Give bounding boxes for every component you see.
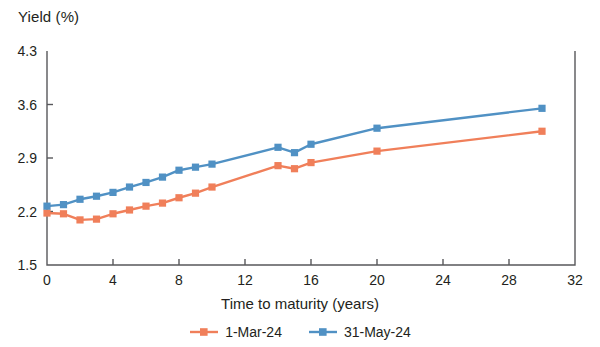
legend-marker-icon xyxy=(189,326,219,338)
data-point-marker xyxy=(76,216,83,223)
data-point-marker xyxy=(175,167,182,174)
data-point-marker xyxy=(208,161,215,168)
series-line xyxy=(47,131,542,220)
x-tick-label: 4 xyxy=(109,272,117,288)
y-tick-label: 4.3 xyxy=(18,43,38,59)
series-31-May-24 xyxy=(43,105,545,210)
data-point-marker xyxy=(307,141,314,148)
axis-frame xyxy=(47,51,575,265)
y-tick-label: 2.2 xyxy=(18,204,38,220)
data-point-marker xyxy=(60,201,67,208)
data-point-marker xyxy=(60,210,67,217)
series-1-Mar-24 xyxy=(43,128,545,224)
x-axis-tick-group: 048121620242832 xyxy=(43,259,583,288)
data-point-marker xyxy=(93,216,100,223)
legend-entry[interactable]: 31-May-24 xyxy=(308,325,411,339)
x-tick-label: 20 xyxy=(369,272,385,288)
data-point-marker xyxy=(76,196,83,203)
data-point-marker xyxy=(159,199,166,206)
data-point-marker xyxy=(142,203,149,210)
data-series-layer xyxy=(43,105,545,224)
legend-label: 1-Mar-24 xyxy=(225,325,282,339)
data-point-marker xyxy=(274,144,281,151)
data-point-marker xyxy=(175,194,182,201)
data-point-marker xyxy=(208,183,215,190)
legend-marker-icon xyxy=(308,326,338,338)
plot-area: 1.52.22.93.64.3 048121620242832 xyxy=(0,0,600,320)
data-point-marker xyxy=(109,210,116,217)
data-point-marker xyxy=(373,148,380,155)
x-tick-label: 8 xyxy=(175,272,183,288)
x-tick-label: 0 xyxy=(43,272,51,288)
x-tick-label: 12 xyxy=(237,272,253,288)
y-tick-label: 1.5 xyxy=(18,257,38,273)
y-tick-label: 3.6 xyxy=(18,97,38,113)
data-point-marker xyxy=(538,128,545,135)
x-tick-label: 16 xyxy=(303,272,319,288)
data-point-marker xyxy=(291,165,298,172)
legend-entry[interactable]: 1-Mar-24 xyxy=(189,325,282,339)
data-point-marker xyxy=(192,164,199,171)
data-point-marker xyxy=(109,189,116,196)
chart-legend: 1-Mar-2431-May-24 xyxy=(0,325,600,339)
x-tick-label: 28 xyxy=(501,272,517,288)
x-axis-title: Time to maturity (years) xyxy=(0,295,600,312)
data-point-marker xyxy=(159,174,166,181)
legend-label: 31-May-24 xyxy=(344,325,411,339)
data-point-marker xyxy=(274,162,281,169)
data-point-marker xyxy=(291,149,298,156)
data-point-marker xyxy=(538,105,545,112)
data-point-marker xyxy=(373,125,380,132)
series-line xyxy=(47,108,542,206)
y-tick-label: 2.9 xyxy=(18,150,38,166)
data-point-marker xyxy=(126,183,133,190)
data-point-marker xyxy=(126,206,133,213)
data-point-marker xyxy=(93,193,100,200)
data-point-marker xyxy=(43,203,50,210)
data-point-marker xyxy=(142,179,149,186)
data-point-marker xyxy=(43,209,50,216)
data-point-marker xyxy=(192,190,199,197)
data-point-marker xyxy=(307,159,314,166)
x-tick-label: 32 xyxy=(567,272,583,288)
x-tick-label: 24 xyxy=(435,272,451,288)
yield-curve-chart: Yield (%) 1.52.22.93.64.3 04812162024283… xyxy=(0,0,600,347)
